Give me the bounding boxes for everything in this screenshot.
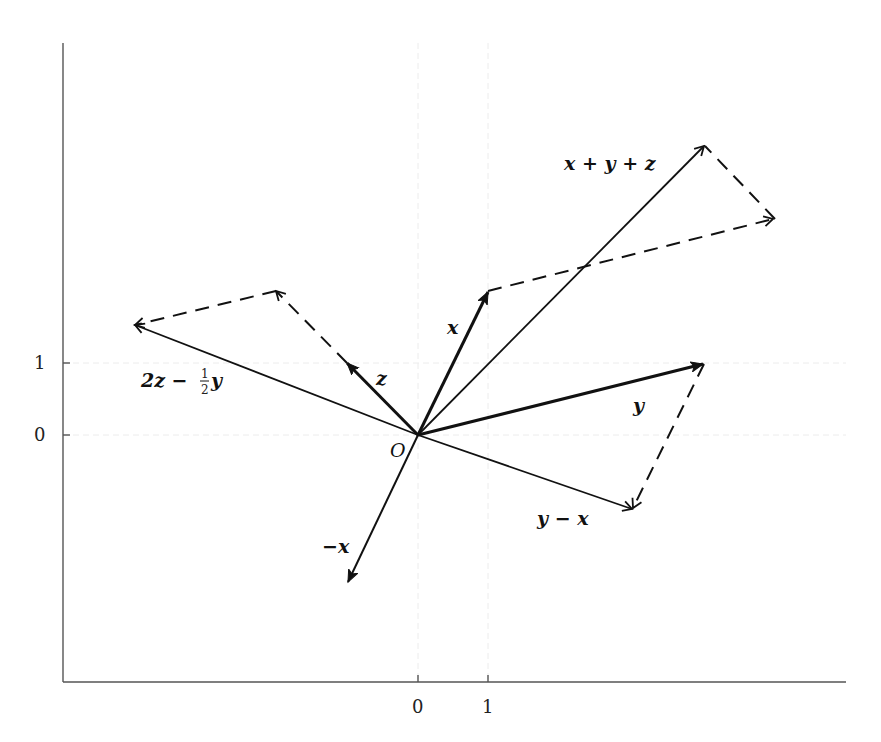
label-y-minus-x: y − x bbox=[536, 507, 589, 529]
label-combo-part-a: 2z − bbox=[140, 369, 188, 391]
y-tick-label-0: 0 bbox=[34, 424, 45, 445]
vector-y-minus-x bbox=[418, 435, 632, 509]
label-z: z bbox=[375, 367, 388, 389]
vector-neg-x bbox=[348, 435, 418, 582]
label-x-plus-y-plus-z: x + y + z bbox=[563, 152, 657, 174]
dashed-neg-x-from-y bbox=[633, 364, 704, 508]
label-combo-frac-num: 1 bbox=[201, 367, 209, 381]
label-y: y bbox=[632, 394, 646, 416]
x-tick-label-1: 1 bbox=[482, 696, 493, 717]
y-tick-label-1: 1 bbox=[34, 352, 45, 373]
label-neg-x: −x bbox=[322, 535, 350, 557]
dashed-z-from-xy bbox=[705, 146, 775, 219]
label-combo-frac-den: 2 bbox=[201, 383, 209, 397]
label-combo-part-b: y bbox=[210, 369, 224, 391]
dashed-y-from-x bbox=[488, 219, 773, 291]
label-x: x bbox=[446, 316, 459, 338]
vector-diagram: 0 1 0 1 O x y z −x x + y + z y − x 2z − … bbox=[0, 0, 881, 742]
dashed-z-from-z bbox=[276, 291, 347, 363]
origin-label: O bbox=[390, 439, 406, 461]
label-2z-minus-half-y: 2z − 1 2 y bbox=[140, 367, 224, 397]
vectors bbox=[135, 146, 704, 582]
vector-x-plus-y-plus-z bbox=[418, 146, 704, 435]
x-tick-label-0: 0 bbox=[412, 696, 423, 717]
vector-y bbox=[418, 364, 703, 435]
dashed-neg-half-y bbox=[135, 291, 276, 325]
